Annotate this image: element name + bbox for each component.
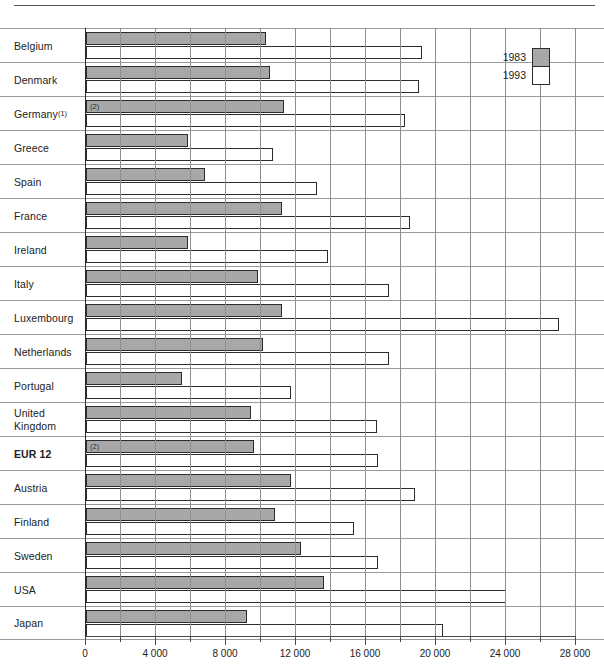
row-label-text: Italy — [14, 278, 34, 290]
bar-1993 — [86, 352, 389, 365]
bar-1983 — [86, 372, 182, 385]
axis-tick-minor — [330, 636, 331, 642]
row-bars — [86, 403, 604, 436]
table-row: United Kingdom — [0, 402, 604, 436]
axis-tick-minor — [470, 636, 471, 642]
table-row: Luxembourg — [0, 300, 604, 334]
row-label-text: France — [14, 210, 47, 222]
row-label-sweden: Sweden — [14, 539, 82, 572]
bar-1983: (2) — [86, 440, 254, 453]
table-row: Sweden — [0, 538, 604, 572]
row-bars — [86, 539, 604, 572]
row-label-belgium: Belgium — [14, 29, 82, 62]
row-label-text: Spain — [14, 176, 41, 188]
row-label-austria: Austria — [14, 471, 82, 504]
row-bars — [86, 199, 604, 232]
row-label-denmark: Denmark — [14, 63, 82, 96]
axis-tick-major — [295, 636, 296, 645]
axis-tick-major — [435, 636, 436, 645]
row-label-japan: Japan — [14, 607, 82, 639]
row-label-text: USA — [14, 584, 36, 596]
bar-1993 — [86, 454, 378, 467]
bar-1983 — [86, 32, 266, 45]
header-divider — [14, 5, 595, 6]
bar-1983 — [86, 508, 275, 521]
row-bars — [86, 505, 604, 538]
axis-tick-major — [365, 636, 366, 645]
row-label-text: Sweden — [14, 550, 53, 562]
axis-tick-major — [505, 636, 506, 645]
axis-tick-minor — [260, 636, 261, 642]
row-bars — [86, 233, 604, 266]
row-label-text: Netherlands — [14, 346, 72, 358]
row-label-france: France — [14, 199, 82, 232]
axis-tick-label: 4 000 — [142, 648, 167, 659]
row-bars — [86, 471, 604, 504]
bar-1993 — [86, 420, 377, 433]
axis-tick-label: 8 000 — [212, 648, 237, 659]
bar-1993 — [86, 216, 410, 229]
table-row: Japan — [0, 606, 604, 640]
bar-1983 — [86, 66, 270, 79]
row-label-united-kingdom: United Kingdom — [14, 403, 82, 436]
row-label-text: Denmark — [14, 74, 57, 86]
axis-tick-label: 28 000 — [560, 648, 591, 659]
row-bars: (2) — [86, 437, 604, 470]
legend-label-1993: 1993 — [503, 69, 526, 81]
bar-1993 — [86, 114, 405, 127]
table-row: Ireland — [0, 232, 604, 266]
bar-1993 — [86, 250, 328, 263]
row-label-netherlands: Netherlands — [14, 335, 82, 368]
axis-tick-major — [85, 636, 86, 645]
row-label-text: Austria — [14, 482, 47, 494]
bar-1983 — [86, 168, 205, 181]
row-bars — [86, 301, 604, 334]
bar-rows: BelgiumDenmarkGermany(1)(2)GreeceSpainFr… — [0, 28, 604, 640]
bar-1993 — [86, 556, 378, 569]
row-label-text: Japan — [14, 617, 43, 629]
bar-footnote: (2) — [90, 101, 99, 112]
bar-1983 — [86, 542, 301, 555]
row-bars — [86, 369, 604, 402]
row-label-greece: Greece — [14, 131, 82, 164]
row-bars — [86, 165, 604, 198]
axis-tick-minor — [190, 636, 191, 642]
axis-tick-major — [225, 636, 226, 645]
bar-1983 — [86, 134, 188, 147]
row-label-text: Belgium — [14, 40, 53, 52]
bar-1993 — [86, 148, 273, 161]
legend-swatches — [532, 48, 550, 86]
axis-tick-label: 16 000 — [350, 648, 381, 659]
row-label-ireland: Ireland — [14, 233, 82, 266]
row-label-germany: Germany(1) — [14, 97, 82, 130]
row-label-text: Germany — [14, 108, 58, 120]
bar-1993 — [86, 590, 506, 603]
row-label-eur-12: EUR 12 — [14, 437, 82, 470]
axis-tick-label: 24 000 — [490, 648, 521, 659]
plot-area: BelgiumDenmarkGermany(1)(2)GreeceSpainFr… — [0, 28, 604, 636]
table-row: Germany(1)(2) — [0, 96, 604, 130]
row-label-text: United Kingdom — [14, 407, 82, 432]
legend-label-1983: 1983 — [503, 51, 526, 63]
legend-swatch-1993 — [532, 66, 550, 85]
bar-1993 — [86, 522, 354, 535]
bar-1983 — [86, 236, 188, 249]
table-row: France — [0, 198, 604, 232]
row-bars: (2) — [86, 97, 604, 130]
axis-tick-minor — [120, 636, 121, 642]
row-label-text: Finland — [14, 516, 49, 528]
row-label-finland: Finland — [14, 505, 82, 538]
row-bars — [86, 267, 604, 300]
row-bars — [86, 335, 604, 368]
axis-tick-label: 12 000 — [280, 648, 311, 659]
row-label-spain: Spain — [14, 165, 82, 198]
table-row: Netherlands — [0, 334, 604, 368]
chart-root: BelgiumDenmarkGermany(1)(2)GreeceSpainFr… — [0, 0, 604, 670]
bar-1983 — [86, 474, 291, 487]
axis-tick-major — [575, 636, 576, 645]
table-row: Portugal — [0, 368, 604, 402]
bar-1993 — [86, 318, 559, 331]
bar-footnote: (2) — [90, 441, 99, 452]
bar-1983 — [86, 270, 258, 283]
row-label-text: Luxembourg — [14, 312, 73, 324]
